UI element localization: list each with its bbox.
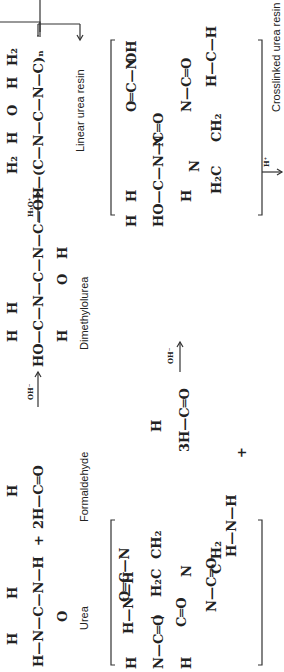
condition-oh: OH⁻ [26,384,35,400]
plus-sign: + [32,535,45,546]
reaction-diagram: H H H—N—C—N—H O Urea + H 2H—C═O Formalde… [0,0,284,672]
plus-sign-2: + [235,447,248,458]
dimethylolurea-label: Dimethylolurea [78,277,90,350]
formaldehyde-label: Formaldehyde [78,452,90,522]
condition-h: H⁺ [262,157,271,167]
crosslinked-label: Crosslinked urea resin [270,3,282,112]
urea-chain: H—N—C—N—H [32,556,45,667]
urea-label: Urea [78,606,90,630]
linear-resin-chain: —(C—N—C—N—C)ₙ [32,50,45,189]
linear-resin-label: Linear urea resin [74,69,86,152]
condition-oh-2: OH⁻ [166,348,175,364]
formaldehyde-chain: 2H—C═O [32,465,45,529]
condition-h3o: H₃O⁺ [26,198,35,217]
